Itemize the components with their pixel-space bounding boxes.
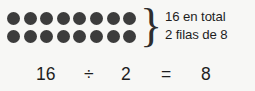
dot-icon (40, 30, 53, 43)
dot-icon (123, 30, 136, 43)
dot-array-diagram (7, 9, 141, 45)
division-operator-icon: ÷ (84, 61, 94, 87)
dot-icon (24, 30, 37, 43)
annotation-total-label: 16 en total (165, 8, 255, 26)
dot-icon (73, 30, 86, 43)
dot-icon (24, 12, 37, 25)
dot-icon (90, 12, 103, 25)
equation-divisor: 2 (121, 61, 131, 87)
annotation-rows-label: 2 filas de 8 (165, 26, 255, 44)
array-annotation: 16 en total 2 filas de 8 (165, 8, 255, 44)
dot-icon (123, 12, 136, 25)
worksheet-page: } 16 en total 2 filas de 8 16 ÷ 2 = 8 (0, 0, 255, 91)
dot-row-2 (7, 27, 141, 45)
dot-icon (7, 30, 20, 43)
dot-icon (57, 12, 70, 25)
dot-icon (7, 12, 20, 25)
division-equation: 16 ÷ 2 = 8 (0, 61, 255, 87)
dot-icon (57, 30, 70, 43)
dot-icon (107, 12, 120, 25)
dot-icon (40, 12, 53, 25)
dot-icon (73, 12, 86, 25)
equation-dividend: 16 (36, 61, 55, 87)
dot-icon (107, 30, 120, 43)
dot-row-1 (7, 9, 141, 27)
dot-icon (90, 30, 103, 43)
equation-quotient: 8 (201, 61, 211, 87)
curly-brace-icon: } (140, 1, 162, 51)
equals-operator-icon: = (161, 61, 171, 87)
